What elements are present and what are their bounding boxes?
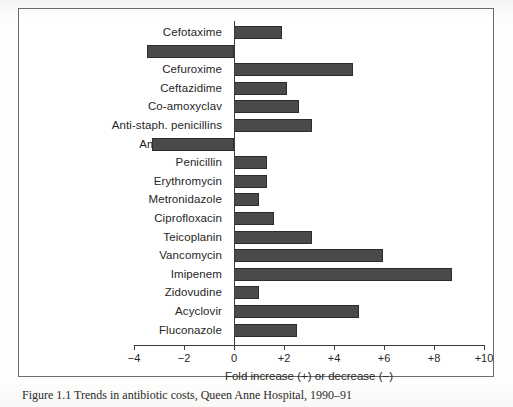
category-label: Metronidazole [22, 190, 222, 208]
bar [234, 156, 267, 169]
bar [234, 175, 267, 188]
x-tick-label: +8 [428, 352, 441, 364]
x-tick-label: +10 [475, 352, 494, 364]
bar [147, 45, 235, 58]
chart-row: Erythromycin [18, 172, 494, 190]
category-label: Ceftazidime [22, 79, 222, 97]
chart-row: Ceftazidime [18, 79, 494, 97]
chart-row: Cefuroxime [18, 60, 494, 78]
x-tick [284, 345, 285, 350]
category-label: Anti-staph. penicillins [22, 116, 222, 134]
chart-row: Ciprofloxacin [18, 209, 494, 227]
bar [234, 305, 359, 318]
chart-row: Penicillin [18, 153, 494, 171]
x-tick [434, 345, 435, 350]
chart-row: Zidovudine [18, 283, 494, 301]
bar [234, 286, 259, 299]
chart-row: Fluconazole [18, 321, 494, 339]
figure-container: CefotaximeCephradineCefuroximeCeftazidim… [0, 0, 513, 407]
figure-caption: Figure 1.1 Trends in antibiotic costs, Q… [22, 388, 492, 404]
bar [234, 119, 312, 132]
bar [234, 324, 297, 337]
x-tick [384, 345, 385, 350]
bar [234, 212, 274, 225]
category-label: Co-amoxyclav [22, 97, 222, 115]
chart-plot-area: CefotaximeCephradineCefuroximeCeftazidim… [18, 8, 494, 377]
chart-row: Imipenem [18, 265, 494, 283]
bar [234, 100, 299, 113]
chart-row: Co-amoxyclav [18, 97, 494, 115]
chart-row: Anti-staph. penicillins [18, 116, 494, 134]
chart-row: Cefotaxime [18, 23, 494, 41]
x-tick-label: +6 [378, 352, 391, 364]
chart-row: Vancomycin [18, 246, 494, 264]
bar [234, 193, 259, 206]
x-axis [134, 345, 484, 346]
bar [234, 26, 282, 39]
x-tick-label: −4 [128, 352, 141, 364]
category-label: Fluconazole [22, 321, 222, 339]
x-tick [334, 345, 335, 350]
zero-baseline [234, 21, 235, 345]
bar [152, 138, 235, 151]
bar [234, 63, 353, 76]
category-label: Teicoplanin [22, 228, 222, 246]
bar [234, 231, 312, 244]
chart-row: Metronidazole [18, 190, 494, 208]
x-tick-label: +2 [278, 352, 291, 364]
x-axis-title: Fold increase (+) or decrease (−) [134, 370, 484, 382]
chart-row: Acyclovir [18, 302, 494, 320]
bar [234, 249, 383, 262]
category-label: Penicillin [22, 153, 222, 171]
chart-row: Cephradine [18, 42, 494, 60]
x-tick-label: −2 [178, 352, 191, 364]
category-label: Erythromycin [22, 172, 222, 190]
category-label: Zidovudine [22, 283, 222, 301]
x-tick-label: +4 [328, 352, 341, 364]
category-label: Vancomycin [22, 246, 222, 264]
x-tick [484, 345, 485, 350]
x-tick-label: 0 [231, 352, 237, 364]
category-label: Imipenem [22, 265, 222, 283]
bar [234, 82, 287, 95]
x-tick [234, 345, 235, 350]
category-label: Acyclovir [22, 302, 222, 320]
chart-row: Ampicillin/Amox [18, 135, 494, 153]
x-tick [134, 345, 135, 350]
chart-row: Teicoplanin [18, 228, 494, 246]
category-label: Cefuroxime [22, 60, 222, 78]
bar [234, 268, 452, 281]
category-label: Ciprofloxacin [22, 209, 222, 227]
x-tick [184, 345, 185, 350]
category-label: Cefotaxime [22, 23, 222, 41]
